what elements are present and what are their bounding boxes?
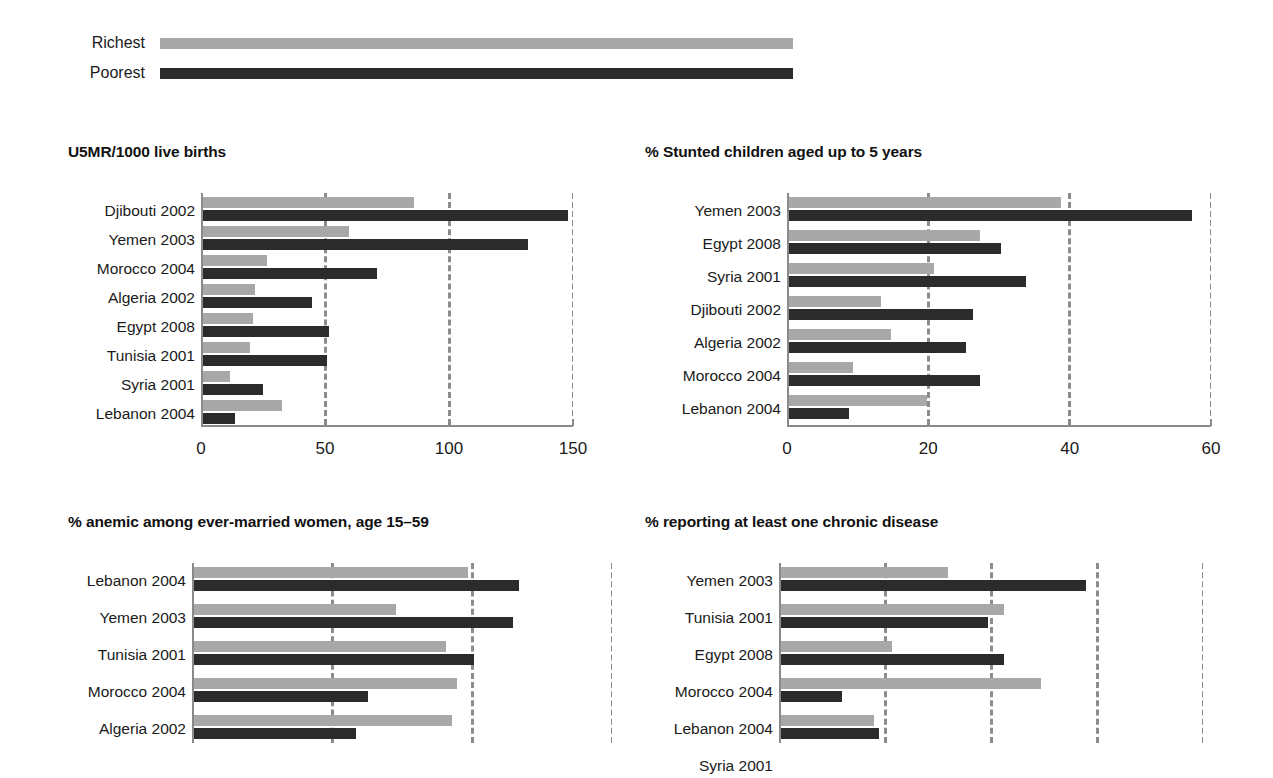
gridline (1202, 563, 1204, 743)
x-axis-tick-label: 40 (1060, 439, 1079, 459)
category-label: Syria 2001 (645, 758, 773, 774)
x-axis-tick-label: 0 (782, 439, 791, 459)
gridline (448, 193, 451, 425)
bar-poorest (789, 243, 1001, 254)
category-label: Morocco 2004 (68, 684, 186, 700)
x-axis-tick (1211, 419, 1212, 426)
bar-poorest (203, 384, 263, 395)
bar-richest (781, 604, 1004, 615)
bar-poorest (194, 617, 513, 628)
bar-poorest (789, 309, 973, 320)
bar-poorest (194, 728, 356, 739)
category-label: Syria 2001 (68, 377, 195, 393)
category-label: Lebanon 2004 (68, 406, 195, 422)
bar-poorest (781, 691, 842, 702)
category-label: Egypt 2008 (68, 319, 195, 335)
bar-richest (789, 296, 881, 307)
bar-richest (203, 226, 349, 237)
category-label: Yemen 2003 (68, 610, 186, 626)
category-label: Egypt 2008 (645, 236, 781, 252)
bar-richest (781, 641, 892, 652)
bar-poorest (203, 210, 568, 221)
gridline (572, 193, 574, 425)
bar-poorest (194, 691, 368, 702)
plot-area (787, 193, 1211, 425)
legend-label: Poorest (0, 66, 145, 80)
category-label: Morocco 2004 (645, 368, 781, 384)
bar-poorest (789, 375, 980, 386)
legend-swatch (160, 68, 793, 79)
category-label: Tunisia 2001 (68, 348, 195, 364)
bar-richest (194, 715, 452, 726)
bar-poorest (203, 239, 528, 250)
bar-poorest (781, 617, 988, 628)
gridline (1210, 193, 1212, 425)
chart-title: % Stunted children aged up to 5 years (645, 143, 922, 161)
category-label: Yemen 2003 (645, 203, 781, 219)
bar-richest (203, 342, 250, 353)
bar-richest (789, 329, 891, 340)
x-axis-tick (201, 419, 202, 426)
x-axis-tick-label: 100 (435, 439, 463, 459)
category-label: Djibouti 2002 (645, 302, 781, 318)
bar-richest (194, 604, 396, 615)
legend-swatch (160, 38, 793, 49)
category-label: Morocco 2004 (645, 684, 773, 700)
bar-richest (789, 395, 927, 406)
bar-poorest (781, 580, 1086, 591)
x-axis-tick-label: 20 (919, 439, 938, 459)
bar-richest (789, 197, 1061, 208)
chart-panel-anemic: % anemic among ever-married women, age 1… (68, 513, 672, 778)
bar-richest (203, 284, 255, 295)
bar-poorest (194, 580, 519, 591)
chart-title: % reporting at least one chronic disease (645, 513, 938, 531)
bar-poorest (789, 276, 1026, 287)
legend-label: Richest (0, 36, 145, 50)
category-label: Egypt 2008 (645, 647, 773, 663)
bar-poorest (203, 297, 312, 308)
plot-area (779, 563, 1203, 743)
x-axis-tick-label: 150 (559, 439, 587, 459)
chart-panel-stunted: % Stunted children aged up to 5 years020… (645, 143, 1271, 465)
x-axis-tick-label: 60 (1202, 439, 1221, 459)
bar-poorest (789, 408, 849, 419)
category-label: Lebanon 2004 (68, 573, 186, 589)
x-axis-tick (1070, 419, 1071, 426)
legend: RichestPoorest (0, 36, 1273, 106)
bar-poorest (203, 355, 327, 366)
x-axis (787, 425, 1211, 427)
chart-title: U5MR/1000 live births (68, 143, 226, 161)
category-label: Yemen 2003 (68, 232, 195, 248)
category-label: Morocco 2004 (68, 261, 195, 277)
bar-richest (781, 567, 948, 578)
gridline (1096, 563, 1099, 743)
bar-poorest (781, 728, 879, 739)
category-label: Algeria 2002 (68, 290, 195, 306)
bar-richest (789, 230, 980, 241)
category-label: Lebanon 2004 (645, 721, 773, 737)
chart-panel-chronic: % reporting at least one chronic disease… (645, 513, 1263, 778)
gridline (1068, 193, 1071, 425)
chart-title: % anemic among ever-married women, age 1… (68, 513, 429, 531)
gridline (611, 563, 613, 743)
category-label: Algeria 2002 (645, 335, 781, 351)
bar-richest (203, 400, 282, 411)
category-label: Djibouti 2002 (68, 203, 195, 219)
category-label: Yemen 2003 (645, 573, 773, 589)
category-label: Syria 2001 (645, 269, 781, 285)
bar-poorest (203, 326, 329, 337)
bar-richest (203, 197, 414, 208)
bar-poorest (789, 342, 966, 353)
bar-poorest (194, 654, 474, 665)
bar-poorest (203, 268, 377, 279)
chart-panel-u5mr: U5MR/1000 live births050100150Djibouti 2… (68, 143, 633, 465)
bar-richest (194, 567, 468, 578)
x-axis-tick-label: 50 (316, 439, 335, 459)
bar-richest (203, 371, 230, 382)
x-axis-tick (449, 419, 450, 426)
bar-richest (781, 715, 874, 726)
bar-poorest (789, 210, 1192, 221)
bar-richest (203, 255, 267, 266)
bar-richest (194, 678, 457, 689)
bar-richest (194, 641, 446, 652)
